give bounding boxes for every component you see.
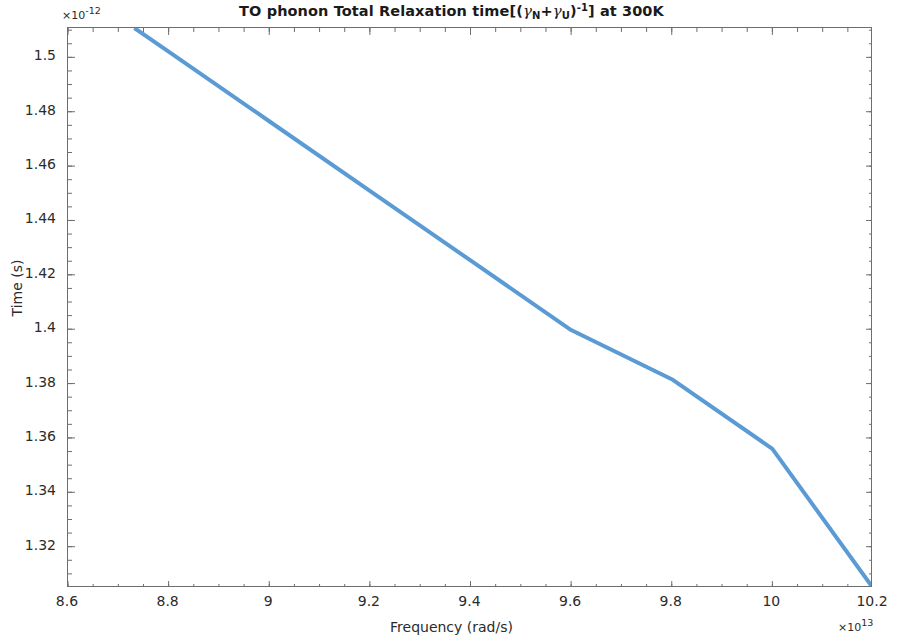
x-tick-label: 9.6 — [540, 593, 600, 609]
plot-svg — [68, 28, 872, 587]
y-tick-label: 1.48 — [0, 102, 56, 118]
y-tick-label: 1.5 — [0, 47, 56, 63]
title-exponent: -1 — [577, 2, 588, 13]
y-tick-label: 1.44 — [0, 210, 56, 226]
y-axis-label: Time (s) — [9, 228, 25, 348]
y-tick-label: 1.34 — [0, 482, 56, 498]
data-series-line — [134, 28, 872, 587]
x-tick-label: 9.8 — [641, 593, 701, 609]
x-tick-label: 10 — [741, 593, 801, 609]
chart-title: TO phonon Total Relaxation time[(γN+γU)-… — [0, 2, 903, 21]
y-tick-label: 1.38 — [0, 374, 56, 390]
y-tick-label: 1.46 — [0, 156, 56, 172]
gamma-u-symbol: γ — [553, 2, 562, 20]
plot-area — [67, 27, 872, 587]
minor-tick-marks — [68, 28, 872, 587]
y-multiplier-prefix: ×10 — [62, 9, 85, 22]
x-tick-label: 9 — [238, 593, 298, 609]
x-tick-label: 8.8 — [138, 593, 198, 609]
y-tick-label: 1.36 — [0, 428, 56, 444]
y-multiplier-exponent: -12 — [85, 5, 101, 16]
gamma-u-subscript: U — [562, 10, 570, 21]
x-tick-label: 8.6 — [37, 593, 97, 609]
title-plus: + — [540, 3, 552, 19]
title-close-paren: ) — [570, 3, 577, 19]
x-tick-label: 9.4 — [440, 593, 500, 609]
matlab-figure: TO phonon Total Relaxation time[(γN+γU)-… — [0, 0, 903, 644]
y-tick-label: 1.32 — [0, 537, 56, 553]
major-tick-marks — [68, 28, 872, 587]
y-axis-multiplier: ×10-12 — [62, 5, 101, 22]
x-tick-label: 9.2 — [339, 593, 399, 609]
gamma-n-symbol: γ — [523, 2, 532, 20]
x-tick-label: 10.2 — [842, 593, 902, 609]
x-axis-label: Frequency (rad/s) — [0, 619, 903, 635]
title-lead: TO phonon Total Relaxation time[( — [239, 3, 523, 19]
title-tail: ] at 300K — [588, 3, 664, 19]
